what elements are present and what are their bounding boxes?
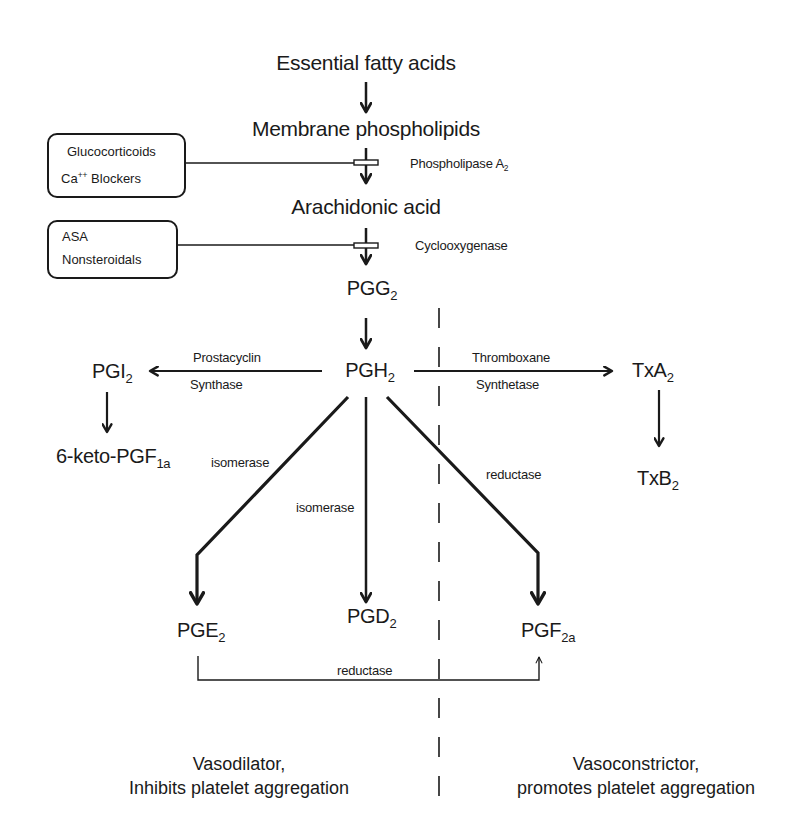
enzyme-isomerase-center: isomerase [296, 501, 354, 514]
prostaglandin-pathway-diagram: Essential fatty acids Membrane phospholi… [0, 0, 800, 833]
node-pgf2a: PGF2a [521, 620, 575, 640]
enzyme-cyclooxygenase: Cyclooxygenase [415, 239, 508, 252]
outcome-left: Vasodilator, Inhibits platelet aggregati… [129, 752, 349, 800]
inhibitor-asa: ASA [62, 230, 88, 243]
outcome-right: Vasoconstrictor, promotes platelet aggre… [517, 752, 755, 800]
node-essential-fatty-acids: Essential fatty acids [276, 52, 455, 73]
outcome-left-line2: Inhibits platelet aggregation [129, 776, 349, 800]
inhibition-bar-phospholipase [354, 160, 378, 165]
arrow-pgh2-to-pgf2a [387, 397, 538, 604]
enzyme-isomerase-left: isomerase [211, 456, 269, 469]
node-txa2: TxA2 [632, 360, 674, 380]
inhibitor-box-asa: ASA Nonsteroidals [47, 220, 178, 279]
inhibitor-box-glucocorticoids: Glucocorticoids Ca++ Blockers [47, 133, 186, 198]
node-pgd2: PGD2 [347, 606, 396, 626]
node-pge2: PGE2 [177, 620, 225, 640]
inhibitor-nonsteroidals: Nonsteroidals [62, 253, 142, 266]
outcome-right-line2: promotes platelet aggregation [517, 776, 755, 800]
inhibitor-ca-blockers: Ca++ Blockers [61, 172, 141, 185]
enzyme-synthetase: Synthetase [476, 378, 539, 391]
enzyme-prostacyclin: Prostacyclin [193, 351, 261, 364]
outcome-left-line1: Vasodilator, [129, 752, 349, 776]
node-pgi2: PGI2 [92, 361, 133, 381]
node-pgh2: PGH2 [345, 360, 394, 380]
node-6-keto-pgf1a: 6-keto-PGF1a [56, 446, 170, 466]
enzyme-reductase-right: reductase [486, 468, 541, 481]
enzyme-thromboxane: Thromboxane [472, 351, 550, 364]
node-arachidonic-acid: Arachidonic acid [291, 196, 440, 217]
node-membrane-phospholipids: Membrane phospholipids [252, 118, 480, 139]
inhibition-bar-cyclooxygenase [354, 243, 378, 248]
enzyme-reductase-bottom: reductase [337, 664, 392, 677]
enzyme-synthase: Synthase [190, 378, 243, 391]
node-txb2: TxB2 [637, 468, 679, 488]
outcome-right-line1: Vasoconstrictor, [517, 752, 755, 776]
node-pgg2: PGG2 [347, 278, 398, 298]
enzyme-phospholipase-a2: Phospholipase A2 [410, 157, 508, 170]
inhibitor-glucocorticoids: Glucocorticoids [67, 145, 156, 158]
